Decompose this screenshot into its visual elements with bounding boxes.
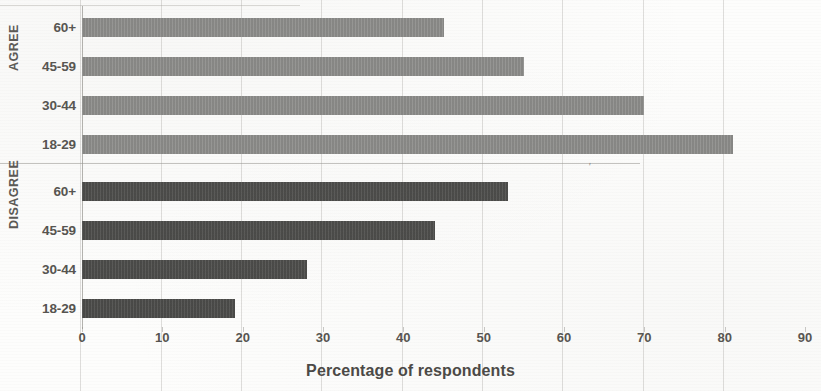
x-tick-label-60: 60	[557, 330, 571, 345]
x-tick-label-10: 10	[155, 330, 169, 345]
category-label-agree-18-29: 18-29	[6, 137, 76, 152]
bar-fill	[82, 260, 307, 279]
bar-disagree-45-59	[82, 221, 435, 240]
bar-fill	[82, 299, 235, 318]
bar-agree-45-59	[82, 57, 524, 76]
x-tick-label-30: 30	[316, 330, 330, 345]
bar-agree-60plus	[82, 18, 444, 37]
bar-agree-18-29	[82, 135, 733, 154]
x-tick-label-80: 80	[717, 330, 731, 345]
bar-fill	[82, 135, 733, 154]
x-tick-label-50: 50	[476, 330, 490, 345]
bar-disagree-18-29	[82, 299, 235, 318]
bar-disagree-60plus	[82, 182, 508, 201]
category-label-agree-60plus: 60+	[6, 20, 76, 35]
category-label-disagree-18-29: 18-29	[6, 301, 76, 316]
category-label-disagree-30-44: 30-44	[6, 262, 76, 277]
bar-fill	[82, 182, 508, 201]
category-label-disagree-60plus: 60+	[6, 184, 76, 199]
bar-fill	[82, 96, 644, 115]
bar-fill	[82, 221, 435, 240]
x-tick-label-70: 70	[637, 330, 651, 345]
x-tick-label-40: 40	[396, 330, 410, 345]
x-axis-tick-labels: 0102030405060708090	[0, 330, 821, 356]
category-label-disagree-45-59: 45-59	[6, 223, 76, 238]
bar-fill	[82, 18, 444, 37]
category-label-agree-45-59: 45-59	[6, 59, 76, 74]
bar-agree-30-44	[82, 96, 644, 115]
x-axis-title: Percentage of respondents	[0, 362, 821, 380]
x-tick-label-20: 20	[235, 330, 249, 345]
bar-disagree-30-44	[82, 260, 307, 279]
x-tick-label-0: 0	[78, 330, 85, 345]
category-label-agree-30-44: 30-44	[6, 98, 76, 113]
x-tick-label-90: 90	[798, 330, 812, 345]
chart-figure: AGREE DISAGREE 60+45-5930-4418-2960+45-5…	[0, 0, 821, 391]
bar-fill	[82, 57, 524, 76]
